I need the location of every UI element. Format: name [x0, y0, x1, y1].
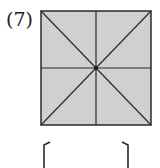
right-bracket: [122, 142, 128, 168]
square-figure: [0, 0, 160, 168]
center-dot: [94, 66, 98, 70]
left-bracket: [44, 142, 50, 168]
answer-bracket[interactable]: [44, 142, 128, 168]
